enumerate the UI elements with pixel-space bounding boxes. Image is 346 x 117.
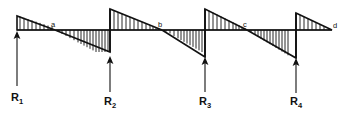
span-4-positive-shear (296, 13, 332, 30)
span-3-positive-shear (205, 9, 247, 30)
reaction-4: R 4 (290, 58, 303, 110)
reaction-3: R 3 (199, 57, 211, 110)
zero-crossing-label-b: b (158, 20, 162, 29)
span-4-group: d (296, 13, 337, 30)
reaction-1-label: R (11, 91, 19, 103)
zero-crossing-label-d: d (333, 21, 337, 30)
reaction-3-label: R (199, 95, 207, 107)
span-1-group: a (17, 16, 110, 52)
span-3-negative-shear (247, 30, 296, 58)
reaction-4-label: R (290, 95, 298, 107)
span-2-negative-hatching (166, 30, 202, 52)
reaction-1: R 1 (11, 31, 23, 106)
reaction-2-subscript: 2 (112, 101, 116, 110)
reaction-3-subscript: 3 (207, 101, 211, 110)
zero-crossing-label-c: c (243, 20, 247, 29)
reaction-4-subscript: 4 (298, 101, 303, 110)
span-2-group: b (110, 9, 205, 57)
zero-crossing-label-a: a (51, 20, 56, 29)
shear-force-diagram: a (0, 0, 346, 117)
reaction-2-label: R (104, 95, 112, 107)
sfd-canvas: a (0, 0, 346, 117)
reaction-1-subscript: 1 (19, 97, 23, 106)
span-3-group: c (205, 9, 296, 58)
reaction-2: R 2 (104, 56, 116, 110)
